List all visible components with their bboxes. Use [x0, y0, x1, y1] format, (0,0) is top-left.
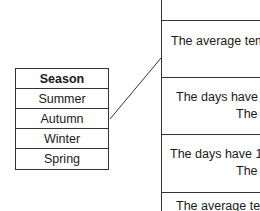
connector-summer-to-row-1[interactable] — [110, 58, 161, 119]
connector-lines — [0, 0, 260, 211]
